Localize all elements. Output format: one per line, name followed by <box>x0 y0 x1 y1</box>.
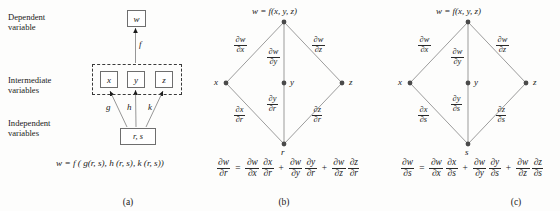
edge-upper-left-num: ∂w <box>234 36 247 45</box>
eq-b-plus-1: + <box>276 163 286 173</box>
node-label-middle: y <box>474 77 478 87</box>
edge-upper-right-den: ∂z <box>312 45 325 55</box>
node-label-right: z <box>349 77 353 87</box>
panel-c: w = f(x, y, z) x y z s ∂w∂x ∂w∂y ∂w∂z ∂x… <box>376 0 560 211</box>
edge-label-lower-mid: ∂y∂s <box>451 95 462 114</box>
eq-b-t1a-den: ∂y <box>289 168 303 179</box>
arrow-label-k: k <box>148 102 152 112</box>
edge-upper-mid-num: ∂w <box>267 48 280 57</box>
edge-label-upper-left: ∂w∂x <box>234 36 247 55</box>
caption-b: (b) <box>264 197 304 207</box>
eq-c-plus-2: + <box>503 163 513 173</box>
edge-lower-right-num: ∂z <box>312 106 322 115</box>
edge-upper-left-num: ∂w <box>418 36 431 45</box>
edge-lower-mid-num: ∂y <box>267 95 278 104</box>
eq-b-t0a-den: ∂x <box>245 168 259 179</box>
eq-b-t2b-num: ∂z <box>348 158 359 168</box>
edge-upper-right-num: ∂w <box>312 36 325 45</box>
eq-c-lhs-den: ∂s <box>401 168 415 179</box>
box-w: w <box>127 10 146 27</box>
edge-lower-mid-num: ∂y <box>451 95 462 104</box>
caption-a: (a) <box>108 197 148 207</box>
eq-c-equals: = <box>417 163 427 173</box>
eq-b-t2a-num: ∂w <box>332 158 346 168</box>
node-label-top: w = f(x, y, z) <box>252 6 297 16</box>
eq-c-t0a-den: ∂x <box>429 168 443 179</box>
edge-lower-mid-den: ∂r <box>267 104 278 114</box>
equation-panel-b: ∂w∂r = ∂w∂x∂x∂r + ∂w∂y∂y∂r + ∂w∂z∂z∂r <box>200 158 376 179</box>
box-y: y <box>127 71 145 88</box>
eq-c-t1a-num: ∂w <box>473 158 487 168</box>
eq-c-t2a-num: ∂w <box>516 158 530 168</box>
eq-c-t1b-num: ∂y <box>489 158 501 168</box>
eq-b-t1b-num: ∂y <box>305 158 317 168</box>
edge-lower-right-num: ∂z <box>496 106 506 115</box>
arrow-label-f: f <box>139 39 142 49</box>
edge-upper-left-den: ∂x <box>234 45 247 55</box>
equation-panel-a: w = f ( g(r, s), h (r, s), k (r, s)) <box>56 158 164 168</box>
eq-b-t2b-den: ∂r <box>348 168 359 179</box>
eq-c-t2b-num: ∂z <box>532 158 543 168</box>
panel-b: w = f(x, y, z) x y z r ∂w∂x ∂w∂y ∂w∂z ∂x… <box>192 0 376 211</box>
eq-c-t0a-num: ∂w <box>429 158 443 168</box>
edge-upper-mid-den: ∂y <box>267 57 280 67</box>
edge-lower-mid-den: ∂s <box>451 104 462 114</box>
edge-label-lower-mid: ∂y∂r <box>267 95 278 114</box>
node-label-left: x <box>214 77 218 87</box>
node-label-top: w = f(x, y, z) <box>436 6 481 16</box>
eq-b-t1a-num: ∂w <box>289 158 303 168</box>
node-label-bottom: r <box>281 147 285 157</box>
eq-b-t2a-den: ∂z <box>332 168 346 179</box>
node-label-middle: y <box>290 77 294 87</box>
eq-b-t0a-num: ∂w <box>245 158 259 168</box>
eq-b-t0b-den: ∂r <box>262 168 274 179</box>
eq-c-t2b-den: ∂s <box>532 168 543 179</box>
edge-lower-left-num: ∂x <box>234 106 245 115</box>
edge-lower-right-den: ∂r <box>312 115 322 125</box>
edge-upper-left-den: ∂x <box>418 45 431 55</box>
box-rs: r, s <box>120 128 156 145</box>
edge-upper-mid-den: ∂y <box>451 57 464 67</box>
edge-label-upper-right: ∂w∂z <box>312 36 325 55</box>
eq-c-t1b-den: ∂s <box>489 168 501 179</box>
node-label-bottom: s <box>465 147 469 157</box>
panel-a: Dependent variable Intermediate variable… <box>0 0 192 211</box>
eq-c-t0b-num: ∂x <box>446 158 458 168</box>
edge-label-lower-left: ∂x∂r <box>234 106 245 125</box>
equation-panel-c: ∂w∂s = ∂w∂x∂x∂s + ∂w∂y∂y∂s + ∂w∂z∂z∂s <box>384 158 560 179</box>
eq-c-t0b-den: ∂s <box>446 168 458 179</box>
eq-c-plus-1: + <box>460 163 470 173</box>
box-x: x <box>100 71 118 88</box>
eq-b-t0b-num: ∂x <box>262 158 274 168</box>
edge-upper-right-num: ∂w <box>496 36 509 45</box>
eq-c-t2a-den: ∂z <box>516 168 530 179</box>
edge-label-lower-right: ∂z∂s <box>496 106 506 125</box>
eq-c-lhs-num: ∂w <box>401 158 415 168</box>
edge-lower-left-den: ∂r <box>234 115 245 125</box>
edge-lower-left-num: ∂x <box>418 106 429 115</box>
edge-lower-left-den: ∂s <box>418 115 429 125</box>
eq-c-t1a-den: ∂y <box>473 168 487 179</box>
edge-label-upper-mid: ∂w∂y <box>451 48 464 67</box>
eq-b-plus-2: + <box>319 163 329 173</box>
node-label-left: x <box>398 77 402 87</box>
chain-rule-figure: Dependent variable Intermediate variable… <box>0 0 560 211</box>
edge-label-upper-mid: ∂w∂y <box>267 48 280 67</box>
edge-upper-mid-num: ∂w <box>451 48 464 57</box>
edge-lower-right-den: ∂s <box>496 115 506 125</box>
eq-b-lhs-num: ∂w <box>217 158 231 168</box>
edge-label-lower-left: ∂x∂s <box>418 106 429 125</box>
edge-label-upper-right: ∂w∂z <box>496 36 509 55</box>
edge-label-lower-right: ∂z∂r <box>312 106 322 125</box>
eq-b-equals: = <box>233 163 243 173</box>
edge-label-upper-left: ∂w∂x <box>418 36 431 55</box>
eq-b-t1b-den: ∂r <box>305 168 317 179</box>
edge-upper-right-den: ∂z <box>496 45 509 55</box>
node-label-right: z <box>533 77 537 87</box>
arrow-label-h: h <box>127 102 132 112</box>
eq-b-lhs-den: ∂r <box>217 168 231 179</box>
arrow-label-g: g <box>106 102 111 112</box>
panel-a-connectors <box>0 0 192 211</box>
box-z: z <box>155 71 173 88</box>
caption-c: (c) <box>496 197 536 207</box>
